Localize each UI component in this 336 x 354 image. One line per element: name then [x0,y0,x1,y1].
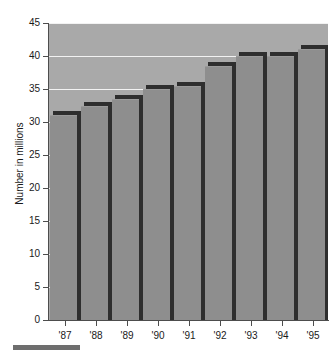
y-axis-tick [43,254,48,255]
y-axis-tick [43,320,48,321]
bar [174,86,201,320]
y-axis-tick [43,188,48,189]
y-axis-tick [43,221,48,222]
y-axis-tick-label: 40 [0,51,40,61]
bar-body [298,49,325,320]
x-axis-tick [158,321,159,326]
bar-shadow-top [301,45,328,49]
gridline [49,23,328,24]
x-axis-tick [251,321,252,326]
y-axis-tick-label: 30 [0,117,40,127]
y-axis-tick [43,122,48,123]
x-axis-tick [282,321,283,326]
bar-shadow-top [208,62,236,66]
y-axis-tick [43,23,48,24]
plot-area [49,23,328,320]
y-axis-tick-label: 10 [0,249,40,259]
bar-shadow [325,49,329,320]
y-axis-tick [43,155,48,156]
bar [236,56,263,320]
bar-shadow-top [146,85,174,89]
x-axis-tick [96,321,97,326]
x-axis-tick [220,321,221,326]
bar-shadow-top [115,95,143,99]
y-axis-tick-label: 25 [0,150,40,160]
bar-body [174,86,201,320]
bar-body [205,66,232,320]
y-axis-tick-label: 20 [0,183,40,193]
bar-shadow [77,115,81,320]
bar [112,99,139,320]
y-axis-line [48,23,49,321]
y-axis-tick-label: 0 [0,315,40,325]
bar-shadow [232,66,236,320]
bar-body [81,106,108,321]
x-axis-tick-label: '95 [293,330,333,341]
bar-shadow-top [270,52,298,56]
y-axis-tick-label: 15 [0,216,40,226]
y-axis-tick [43,89,48,90]
y-axis-tick [43,56,48,57]
footer-rule [13,345,80,350]
bar-shadow [294,56,298,320]
bar-chart-figure: Number in millions 051015202530354045 '8… [0,0,336,354]
bar-body [112,99,139,320]
bar-body [50,115,77,320]
bar-shadow-top [239,52,267,56]
x-axis-tick [127,321,128,326]
bar-body [143,89,170,320]
y-axis-tick-label: 5 [0,282,40,292]
bar-body [236,56,263,320]
bar [298,49,325,320]
x-axis-tick [189,321,190,326]
bar-body [267,56,294,320]
x-axis-tick [313,321,314,326]
bar-shadow-top [177,82,205,86]
x-axis-tick [65,321,66,326]
bar-shadow [170,89,174,320]
bar-shadow-top [84,102,112,106]
y-axis-tick-label: 35 [0,84,40,94]
bar-shadow [108,106,112,321]
bar [50,115,77,320]
bar [267,56,294,320]
bar-shadow-top [53,111,81,115]
bar-shadow [139,99,143,320]
bar [205,66,232,320]
bar [143,89,170,320]
bar [81,106,108,321]
bar-shadow [201,86,205,320]
y-axis-tick-label: 45 [0,18,40,28]
y-axis-tick [43,287,48,288]
bar-shadow [263,56,267,320]
